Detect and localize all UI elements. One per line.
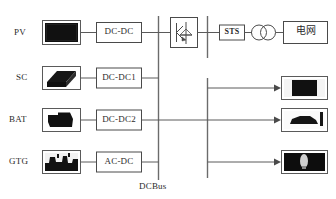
source-label-pv: PV	[14, 28, 26, 37]
load-3-arrowhead	[274, 159, 281, 166]
source-label-sc: SC	[16, 73, 27, 82]
dc-bus-label: DCBus	[139, 182, 167, 191]
grid-label: 电网	[283, 26, 328, 36]
source-label-gtg: GTG	[9, 157, 28, 166]
transformer-secondary-winding	[261, 25, 276, 40]
transformer-primary-winding	[252, 25, 267, 40]
gtg-stack-detail-2	[68, 153, 70, 157]
load-2-arrowhead	[274, 117, 281, 124]
converter-label-pv: DC-DC	[96, 27, 142, 36]
sc-thumbnail-front	[47, 82, 66, 87]
converter-label-sc: DC-DC1	[96, 73, 142, 82]
lamp-glow	[300, 154, 308, 168]
converter-label-gtg: AC-DC	[96, 157, 142, 166]
gtg-stack-detail	[57, 154, 59, 158]
inverter-box	[171, 18, 198, 48]
sts-label: STS	[219, 28, 245, 36]
load-1-arrowhead	[274, 85, 281, 92]
load-1-thumbnail-image	[292, 80, 317, 96]
source-label-bat: BAT	[9, 115, 27, 124]
pv-thumbnail-image	[45, 23, 78, 42]
ev-charging-post	[320, 112, 323, 126]
converter-label-bat: DC-DC2	[96, 115, 142, 124]
lamp-base	[302, 166, 306, 169]
microgrid-diagram: PV SC BAT GTG DC-DC DC-DC1 DC-DC2 AC-DC …	[0, 0, 336, 199]
